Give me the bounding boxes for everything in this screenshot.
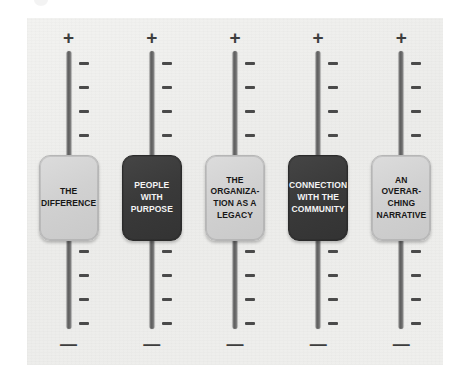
scale-tick (411, 134, 421, 137)
fader-connection-with-the-community[interactable]: +CONNECTION WITH THE COMMUNITY— (279, 18, 357, 365)
minus-icon: — (143, 336, 160, 353)
scale-tick (411, 110, 421, 113)
minus-icon: — (310, 336, 327, 353)
fader-an-overarching-narrative[interactable]: +AN OVERAR- CHING NARRATIVE— (362, 18, 440, 365)
scale-tick (245, 274, 255, 277)
scale-tick (79, 62, 89, 65)
minus-icon: — (60, 336, 77, 353)
scale-tick (245, 110, 255, 113)
scale-tick (328, 322, 338, 325)
fader-knob[interactable]: THE ORGANIZA- TION AS A LEGACY (205, 155, 265, 241)
fader-knob[interactable]: CONNECTION WITH THE COMMUNITY (288, 155, 348, 241)
scale-tick (245, 134, 255, 137)
scale-tick (162, 322, 172, 325)
scale-tick (245, 86, 255, 89)
scale-tick (79, 110, 89, 113)
scale-tick (245, 62, 255, 65)
page-bleed-mark (34, 0, 48, 6)
fader-knob-label: CONNECTION WITH THE COMMUNITY (289, 180, 347, 215)
fader-the-difference[interactable]: +THE DIFFERENCE— (30, 18, 108, 365)
scale-tick (79, 250, 89, 253)
scale-tick (328, 134, 338, 137)
scale-tick (411, 298, 421, 301)
fader-knob-label: THE DIFFERENCE (41, 186, 96, 209)
scale-tick (79, 86, 89, 89)
scale-tick (162, 274, 172, 277)
fader-the-organization-as-a-legacy[interactable]: +THE ORGANIZA- TION AS A LEGACY— (196, 18, 274, 365)
scale-tick (328, 110, 338, 113)
fader-knob[interactable]: AN OVERAR- CHING NARRATIVE (371, 155, 431, 241)
scale-tick (411, 86, 421, 89)
plus-icon: + (313, 28, 324, 47)
fader-rack: +THE DIFFERENCE—+PEOPLE WITH PURPOSE—+TH… (27, 18, 443, 365)
plus-icon: + (63, 28, 74, 47)
scale-tick (245, 250, 255, 253)
scale-tick (162, 86, 172, 89)
plus-icon: + (146, 28, 157, 47)
scale-tick (328, 298, 338, 301)
scale-tick (411, 274, 421, 277)
fader-knob-label: PEOPLE WITH PURPOSE (131, 180, 173, 215)
scale-tick (411, 322, 421, 325)
scale-tick (162, 110, 172, 113)
scale-tick (79, 134, 89, 137)
scale-tick (162, 62, 172, 65)
minus-icon: — (393, 336, 410, 353)
scale-tick (162, 134, 172, 137)
minus-icon: — (226, 336, 243, 353)
scale-tick (79, 322, 89, 325)
scale-tick (411, 62, 421, 65)
scale-tick (79, 274, 89, 277)
plus-icon: + (396, 28, 407, 47)
fader-panel: +THE DIFFERENCE—+PEOPLE WITH PURPOSE—+TH… (27, 18, 443, 365)
scale-tick (328, 86, 338, 89)
scale-tick (245, 298, 255, 301)
fader-knob-label: AN OVERAR- CHING NARRATIVE (376, 175, 426, 222)
fader-knob[interactable]: PEOPLE WITH PURPOSE (122, 155, 182, 241)
fader-people-with-purpose[interactable]: +PEOPLE WITH PURPOSE— (113, 18, 191, 365)
scale-tick (328, 62, 338, 65)
scale-tick (162, 250, 172, 253)
scale-tick (245, 322, 255, 325)
plus-icon: + (229, 28, 240, 47)
scale-tick (79, 298, 89, 301)
fader-knob-label: THE ORGANIZA- TION AS A LEGACY (210, 175, 259, 222)
scale-tick (328, 274, 338, 277)
fader-knob[interactable]: THE DIFFERENCE (39, 155, 99, 241)
scale-tick (411, 250, 421, 253)
scale-tick (328, 250, 338, 253)
scale-tick (162, 298, 172, 301)
